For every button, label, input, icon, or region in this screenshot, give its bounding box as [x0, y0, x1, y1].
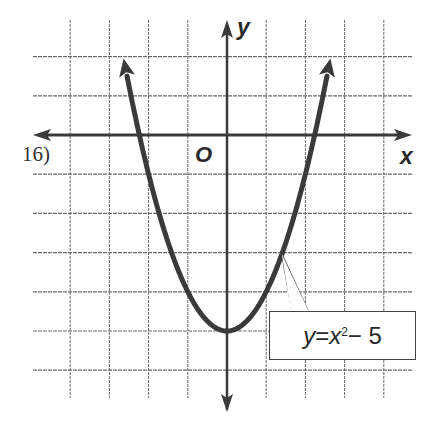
coordinate-plane: [0, 0, 442, 424]
y-axis-label: y: [237, 14, 250, 41]
eq-equals: =: [315, 322, 329, 350]
eq-exponent: 2: [341, 325, 348, 339]
graph: 16) O x y y = x2 − 5: [0, 0, 442, 424]
problem-number: 16): [22, 142, 50, 167]
eq-rest: − 5: [348, 322, 382, 350]
equation-label: y = x2 − 5: [269, 311, 416, 360]
origin-label: O: [195, 142, 212, 168]
eq-y: y: [303, 322, 315, 350]
x-axis-label: x: [400, 143, 413, 170]
eq-x: x: [329, 322, 341, 350]
